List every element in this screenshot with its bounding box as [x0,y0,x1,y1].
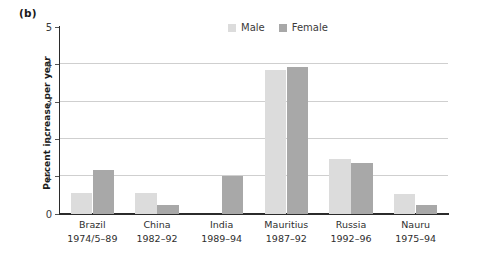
x-axis-category-label: China1982–92 [125,218,190,245]
y-axis-tick-labels: 012345 [26,0,52,261]
bar-brazil-female [93,170,115,214]
x-axis-category-label: Russia1992–96 [319,218,384,245]
bar-mauritius-male [265,70,287,214]
category-name: India [189,218,254,232]
x-axis-category-label: Mauritius1987–92 [254,218,319,245]
category-name: Nauru [383,218,448,232]
bar-group [383,27,448,214]
y-axis-tick-mark [55,102,59,103]
y-axis-tick-label: 3 [28,96,52,107]
category-period: 1974/5–89 [60,232,125,246]
bar-russia-female [351,163,373,213]
category-period: 1975–94 [383,232,448,246]
y-axis-tick-label: 1 [28,171,52,182]
category-name: Mauritius [254,218,319,232]
bar-nauru-male [394,194,416,213]
category-name: Russia [319,218,384,232]
bar-group [254,27,319,214]
bar-china-male [135,193,157,213]
category-name: China [125,218,190,232]
category-period: 1992–96 [319,232,384,246]
bar-china-female [157,205,179,213]
figure-panel-b: (b) Male Female Percent increase per yea… [0,0,481,261]
bar-brazil-male [71,193,93,214]
y-axis-tick-label: 0 [28,208,52,219]
category-period: 1987–92 [254,232,319,246]
bar-mauritius-female [287,67,309,214]
y-axis-tick-mark [55,176,59,177]
y-axis-tick-mark [55,64,59,65]
x-axis-category-label: India1989–94 [189,218,254,245]
y-axis-tick-mark [55,27,59,28]
category-period: 1989–94 [189,232,254,246]
y-axis-tick-mark [55,214,59,215]
bar-nauru-female [416,205,438,213]
bar-group [125,27,190,214]
bar-group [189,27,254,214]
bar-group [60,27,125,214]
y-axis-tick-mark [55,139,59,140]
y-axis-tick-label: 5 [28,22,52,33]
x-axis-category-label: Brazil1974/5–89 [60,218,125,245]
category-period: 1982–92 [125,232,190,246]
bar-group [319,27,384,214]
x-axis-category-label: Nauru1975–94 [383,218,448,245]
category-name: Brazil [60,218,125,232]
y-axis-tick-label: 4 [28,59,52,70]
bar-russia-male [329,159,351,214]
bar-india-female [222,176,244,214]
plot-area [60,27,448,214]
y-axis-tick-label: 2 [28,133,52,144]
